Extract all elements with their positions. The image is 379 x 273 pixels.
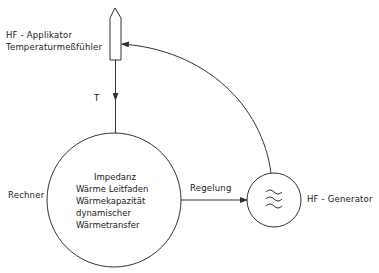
probe-label-line2: Temperaturmeßfühler xyxy=(6,42,102,53)
computer-content-4: dynamischer xyxy=(76,208,131,220)
edge-generator-to-probe xyxy=(122,44,271,173)
generator-circle xyxy=(247,173,301,227)
computer-content-2: Wärme Leitfaden xyxy=(76,184,148,196)
computer-content-1: Impedanz xyxy=(94,172,136,184)
computer-label: Rechner xyxy=(8,190,44,201)
probe-shape xyxy=(110,8,121,60)
computer-content-5: Wärmetransfer xyxy=(76,220,140,232)
edge-label-t: T xyxy=(94,93,99,104)
probe-label-line1: HF - Applikator xyxy=(6,30,72,41)
computer-content-3: Wärmekapazität xyxy=(76,196,145,208)
edge-label-regelung: Regelung xyxy=(190,183,232,194)
triple-wave-icon xyxy=(266,190,282,208)
generator-label: HF - Generator xyxy=(307,194,373,205)
